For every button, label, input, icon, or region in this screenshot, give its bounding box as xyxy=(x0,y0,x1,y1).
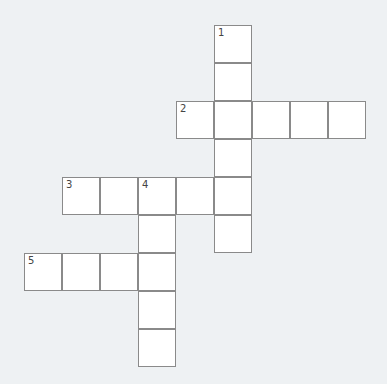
crossword-cell[interactable] xyxy=(214,177,252,215)
crossword-cell[interactable]: 5 xyxy=(24,253,62,291)
clue-number: 2 xyxy=(180,103,186,115)
crossword-cell[interactable]: 1 xyxy=(214,25,252,63)
crossword-cell[interactable]: 4 xyxy=(138,177,176,215)
crossword-cell[interactable] xyxy=(214,63,252,101)
crossword-cell[interactable] xyxy=(214,101,252,139)
crossword-cell[interactable] xyxy=(328,101,366,139)
clue-number: 5 xyxy=(28,255,34,267)
crossword-cell[interactable] xyxy=(138,215,176,253)
crossword-cell[interactable] xyxy=(138,253,176,291)
crossword-cell[interactable] xyxy=(176,177,214,215)
clue-number: 1 xyxy=(218,27,224,39)
crossword-cell[interactable] xyxy=(138,329,176,367)
crossword-cell[interactable] xyxy=(252,101,290,139)
clue-number: 4 xyxy=(142,179,148,191)
crossword-cell[interactable] xyxy=(100,177,138,215)
crossword-cell[interactable] xyxy=(100,253,138,291)
crossword-cell[interactable]: 2 xyxy=(176,101,214,139)
crossword-cell[interactable] xyxy=(290,101,328,139)
crossword-cell[interactable] xyxy=(62,253,100,291)
crossword-cell[interactable] xyxy=(214,215,252,253)
crossword-cell[interactable] xyxy=(138,291,176,329)
crossword-cell[interactable] xyxy=(214,139,252,177)
crossword-cell[interactable]: 3 xyxy=(62,177,100,215)
clue-number: 3 xyxy=(66,179,72,191)
